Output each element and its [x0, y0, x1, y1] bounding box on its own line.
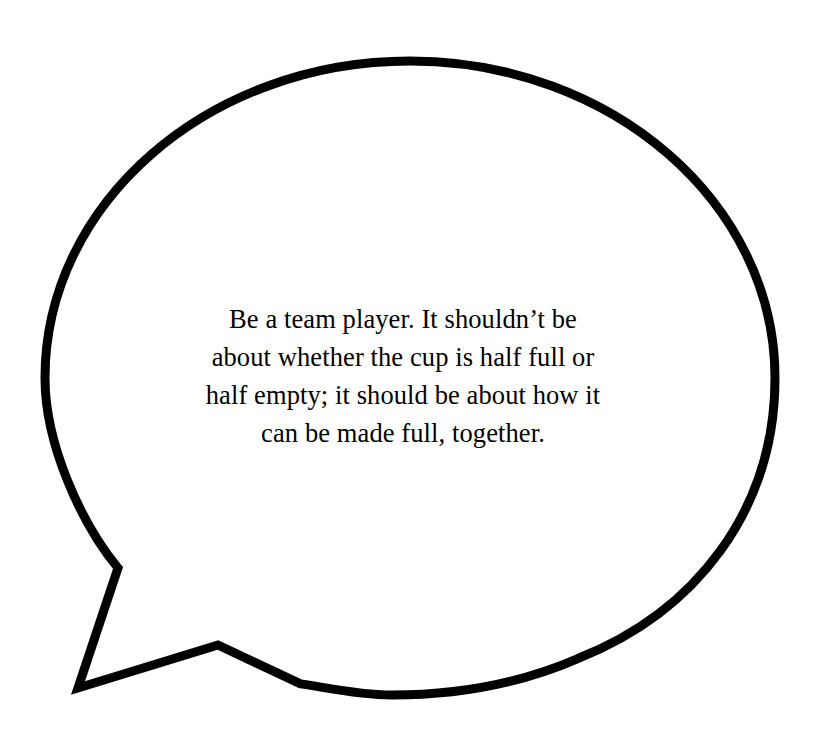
- quote-line-3: half empty; it should be about how it: [143, 376, 663, 414]
- quote-line-2: about whether the cup is half full or: [143, 338, 663, 376]
- quote-line-1: Be a team player. It shouldn’t be: [143, 300, 663, 338]
- quote-text-block: Be a team player. It shouldn’t be about …: [143, 300, 663, 452]
- speech-bubble-illustration: Be a team player. It shouldn’t be about …: [0, 0, 822, 732]
- quote-line-4: can be made full, together.: [143, 414, 663, 452]
